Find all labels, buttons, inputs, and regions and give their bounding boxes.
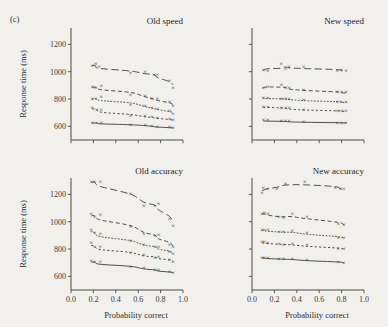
fit-line-bottom-right-quantile-0.3 xyxy=(262,243,344,249)
data-point: × xyxy=(281,255,285,263)
data-point: × xyxy=(287,117,291,125)
data-point: × xyxy=(99,82,103,90)
y-tick-label-bottom-left-2: 1000 xyxy=(50,218,66,227)
data-point: × xyxy=(266,254,270,262)
x-tick-label-bottom-right-2: 0.4 xyxy=(292,295,302,304)
data-point: × xyxy=(93,213,97,221)
data-point: × xyxy=(143,102,147,110)
y-tick-label-top-left-3: 1200 xyxy=(50,40,66,49)
fit-line-top-left-quantile-0.1 xyxy=(92,123,173,128)
markers-bottom-left-quantile-0.1: ××××××××× xyxy=(89,257,175,277)
y-tick-label-top-left-0: 600 xyxy=(54,122,66,131)
data-point: × xyxy=(90,119,94,127)
data-point: × xyxy=(344,107,348,115)
x-tick-label-bottom-right-5: 1.0 xyxy=(359,295,369,304)
data-point: × xyxy=(336,234,340,242)
data-point: × xyxy=(302,106,306,114)
data-point: × xyxy=(98,211,102,219)
data-point: × xyxy=(155,123,159,131)
data-point: × xyxy=(335,88,339,96)
data-point: × xyxy=(97,63,101,71)
data-point: × xyxy=(266,226,270,234)
data-point: × xyxy=(305,213,309,221)
data-point: × xyxy=(142,202,146,210)
data-point: × xyxy=(94,95,98,103)
markers-bottom-right-quantile-0.7: ××××××××× xyxy=(260,209,346,229)
figure-label: (c) xyxy=(10,14,20,24)
data-point: × xyxy=(277,213,281,221)
x-tick-label-bottom-right-3: 0.6 xyxy=(314,295,324,304)
data-point: × xyxy=(335,98,339,106)
y-axis-title-top: Response time (ms) xyxy=(18,50,28,118)
data-point: × xyxy=(290,210,294,218)
x-tick-label-bottom-left-2: 0.4 xyxy=(111,295,121,304)
x-tick-label-bottom-left-0: 0.0 xyxy=(66,295,76,304)
fit-line-top-left-quantile-0.5 xyxy=(92,99,173,113)
data-point: × xyxy=(128,223,132,231)
x-axis-title-right: Probability correct xyxy=(285,310,349,320)
data-point: × xyxy=(302,63,306,71)
panel-title-bottom-right: New accuracy xyxy=(313,166,365,176)
x-tick-label-bottom-left-1: 0.2 xyxy=(88,295,98,304)
data-point: × xyxy=(150,122,154,130)
data-point: × xyxy=(142,241,146,249)
data-point: × xyxy=(340,88,344,96)
y-tick-label-bottom-left-3: 1200 xyxy=(50,190,66,199)
data-point: × xyxy=(142,264,146,272)
data-point: × xyxy=(128,249,132,257)
data-point: × xyxy=(344,98,348,106)
data-point: × xyxy=(128,91,132,99)
data-point: × xyxy=(342,221,346,229)
data-point: × xyxy=(335,119,339,127)
data-point: × xyxy=(344,67,348,75)
data-point: × xyxy=(279,95,283,103)
data-point: × xyxy=(266,83,270,91)
data-point: × xyxy=(279,60,283,68)
markers-bottom-right-quantile-0.5: ××××××××× xyxy=(260,226,346,242)
data-point: × xyxy=(333,184,337,192)
data-point: × xyxy=(305,241,309,249)
data-point: × xyxy=(275,185,279,193)
fit-line-top-left-quantile-0.9 xyxy=(92,65,173,84)
data-point: × xyxy=(290,240,294,248)
x-tick-label-bottom-right-0: 0.0 xyxy=(247,295,257,304)
data-point: × xyxy=(143,112,147,120)
x-tick-label-bottom-left-4: 0.8 xyxy=(156,295,166,304)
data-point: × xyxy=(340,98,344,106)
data-point: × xyxy=(94,84,98,92)
data-point: × xyxy=(266,239,270,247)
y-axis-title-bottom: Response time (ms) xyxy=(18,200,28,268)
data-point: × xyxy=(156,231,160,239)
data-point: × xyxy=(287,84,291,92)
data-point: × xyxy=(128,101,132,109)
data-point: × xyxy=(305,229,309,237)
data-point: × xyxy=(344,119,348,127)
data-point: × xyxy=(335,67,339,75)
data-point: × xyxy=(128,112,132,120)
data-point: × xyxy=(261,184,265,192)
markers-top-right-quantile-0.7: ××××××××× xyxy=(261,81,348,97)
data-point: × xyxy=(266,67,270,75)
data-point: × xyxy=(261,66,265,74)
panel-title-bottom-left: Old accuracy xyxy=(135,166,183,176)
data-point: × xyxy=(303,178,307,186)
x-axis-title-left: Probability correct xyxy=(104,310,168,320)
data-point: × xyxy=(279,104,283,112)
data-point: × xyxy=(93,178,97,186)
data-point: × xyxy=(281,241,285,249)
data-point: × xyxy=(98,258,102,266)
markers-top-right-quantile-0.9: ××××××××× xyxy=(261,60,348,74)
data-point: × xyxy=(93,229,97,237)
data-point: × xyxy=(302,118,306,126)
data-point: × xyxy=(266,103,270,111)
data-point: × xyxy=(284,180,288,188)
data-point: × xyxy=(98,178,102,186)
data-point: × xyxy=(171,222,175,230)
panel-bottom-right: 0.00.20.40.60.81.0New accuracy××××××××××… xyxy=(247,166,369,304)
data-point: × xyxy=(95,106,99,114)
data-point: × xyxy=(287,63,291,71)
y-tick-label-bottom-left-1: 800 xyxy=(54,245,66,254)
data-point: × xyxy=(302,86,306,94)
x-tick-label-bottom-right-1: 0.2 xyxy=(269,295,279,304)
data-point: × xyxy=(171,124,175,132)
